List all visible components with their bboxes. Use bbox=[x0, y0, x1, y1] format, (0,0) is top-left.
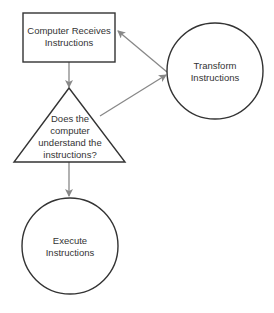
node-transform: Transform Instructions bbox=[167, 23, 263, 119]
node-execute-line-2: Instructions bbox=[46, 247, 95, 258]
node-execute: Execute Instructions bbox=[22, 198, 118, 294]
node-transform-line-1: Transform bbox=[194, 60, 237, 71]
node-decide: Does the computer understand the instruc… bbox=[14, 88, 125, 162]
edge-transform-to-receive bbox=[118, 31, 167, 72]
node-decide-line-3: understand the bbox=[38, 137, 101, 148]
node-decide-line-1: Does the bbox=[51, 113, 89, 124]
edge-decide-to-transform bbox=[100, 75, 166, 116]
node-decide-line-4: instructions? bbox=[43, 149, 96, 160]
flowchart: Computer Receives Instructions Does the … bbox=[0, 0, 274, 313]
node-execute-line-1: Execute bbox=[53, 235, 87, 246]
node-receive-line-2: Instructions bbox=[45, 37, 94, 48]
node-receive: Computer Receives Instructions bbox=[23, 13, 115, 62]
node-receive-line-1: Computer Receives bbox=[27, 25, 111, 36]
node-transform-line-2: Instructions bbox=[191, 72, 240, 83]
node-decide-line-2: computer bbox=[50, 125, 90, 136]
